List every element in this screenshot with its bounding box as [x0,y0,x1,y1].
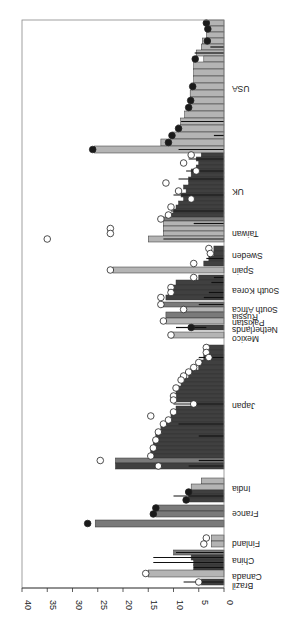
open-marker [207,250,214,257]
open-marker [188,196,195,203]
axis-tick-label: 20 [124,600,134,610]
bar [158,430,224,434]
axis-tick-label: 25 [99,600,109,610]
country-label: South Africa [232,305,278,315]
open-marker [165,212,172,219]
country-label: Spain [232,266,254,276]
bar [189,490,224,494]
bar [185,111,224,118]
open-marker [160,318,167,325]
bar [156,511,224,517]
bar [178,125,224,132]
open-marker [168,332,175,339]
bar [194,76,224,83]
bar [209,20,224,26]
filled-marker [175,125,182,132]
bar [176,390,224,394]
bar [166,312,224,318]
open-marker [201,541,208,548]
filled-marker [165,139,172,146]
bar [176,406,224,410]
bar [95,520,224,527]
filled-marker [185,489,192,496]
country-label: USA [232,84,250,94]
bar [156,505,224,511]
country-label: India [232,484,251,494]
bar [186,307,224,312]
open-marker [153,437,160,444]
open-marker [170,409,177,416]
filled-marker [89,146,96,153]
open-marker [147,413,154,420]
open-marker [195,359,202,366]
bar [168,418,224,422]
bar [201,153,224,157]
bar [163,231,224,236]
bar [153,446,224,450]
open-marker [160,421,167,428]
country-labels: BrazilCanadaChinaFinlandFranceIndiaJapan… [232,84,280,591]
bar [189,104,224,111]
filled-marker [150,511,157,518]
open-marker [193,168,200,175]
bar [174,398,225,402]
bar [151,454,224,458]
bar [189,374,224,378]
axis-tick-label: 15 [149,600,159,610]
open-marker [180,160,187,167]
open-marker [173,385,180,392]
country-label: UK [232,187,244,197]
open-marker [190,401,197,408]
axis-tick-label: 0 [225,600,235,605]
bar [161,426,224,430]
bar [214,251,224,256]
open-marker [97,457,104,464]
bar [151,450,224,454]
bar [153,442,224,446]
bar [194,62,224,69]
bar [174,394,225,398]
bar [190,90,224,97]
open-marker [188,152,195,159]
country-label: China [232,556,254,566]
country-label: Taiwan [232,229,259,239]
bar [179,386,224,390]
open-marker [190,260,197,267]
open-marker [206,354,213,361]
bar-chart: 0510152025303540 BrazilCanadaChinaFinlan… [0,0,304,621]
bar [191,370,224,374]
filled-marker [183,497,190,504]
bar [166,318,224,324]
open-marker [158,301,165,308]
country-label: Finland [232,539,260,549]
bar [190,97,224,104]
bar [171,285,224,290]
bar [163,226,224,231]
open-marker [170,397,177,404]
bar [184,378,224,382]
filled-marker [187,97,194,104]
bar [206,32,224,38]
bar [171,332,224,338]
country-label: Japan [232,401,255,411]
bar [113,267,224,273]
open-marker [168,204,175,211]
open-marker [195,579,202,586]
bar [184,185,224,189]
open-marker [155,463,162,470]
filled-marker [192,56,199,63]
filled-marker [205,26,212,33]
bar [191,484,224,490]
open-marker [107,267,114,274]
open-marker [147,453,154,460]
filled-marker [203,20,210,27]
bar [201,360,224,365]
bar [204,56,224,62]
filled-marker [169,132,176,139]
filled-marker [189,83,196,90]
country-label: Canada [232,572,262,582]
bar [176,205,224,209]
open-marker [150,445,157,452]
filled-marker [188,324,195,331]
bar [148,570,224,577]
